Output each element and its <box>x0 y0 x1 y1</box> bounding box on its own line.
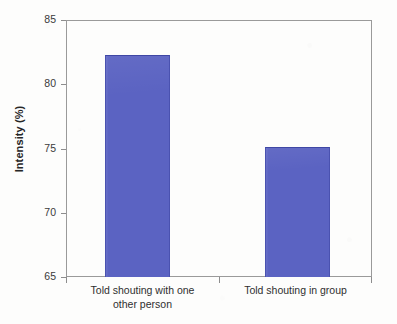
x-axis-label-category-2: Told shouting in group <box>219 283 372 297</box>
x-axis-label-category-1: Told shouting with one other person <box>66 283 219 311</box>
y-axis-title: Intensity (%) <box>8 0 30 277</box>
y-tick-label-75: 75 <box>44 142 56 155</box>
bar-chart-figure: Intensity (%) 85 80 75 70 65 Told shouti… <box>0 0 397 324</box>
x-axis-label-category-1-line-2: other person <box>66 297 219 311</box>
bar-told-shouting-with-one-other-person <box>105 55 170 277</box>
y-tick-label-80: 80 <box>44 77 56 90</box>
y-axis-title-text: Intensity (%) <box>13 105 25 172</box>
y-tick-label-85: 85 <box>44 13 56 26</box>
y-tick-label-65: 65 <box>44 270 56 283</box>
x-axis-label-category-2-line-1: Told shouting in group <box>219 283 372 297</box>
y-tick-label-70: 70 <box>44 206 56 219</box>
x-axis-label-category-1-line-1: Told shouting with one <box>66 283 219 297</box>
bar-told-shouting-in-group <box>265 147 330 277</box>
